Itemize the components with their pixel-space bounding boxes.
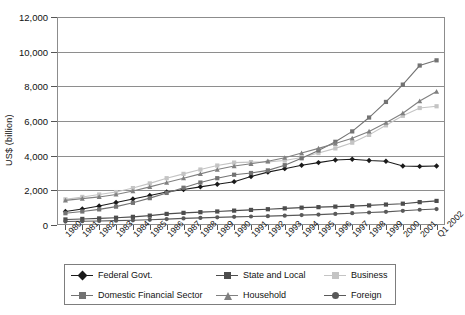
- data-point: [283, 206, 287, 210]
- data-point: [299, 163, 304, 168]
- data-point: [300, 156, 304, 160]
- data-point: [384, 202, 388, 206]
- data-point: [367, 129, 372, 134]
- chart-legend: Federal Govt.State and LocalBusinessDome…: [64, 264, 396, 305]
- data-point: [63, 211, 67, 215]
- data-point: [434, 89, 439, 94]
- data-point: [333, 157, 338, 162]
- data-point: [131, 201, 135, 205]
- legend-item-federal-govt[interactable]: Federal Govt.: [71, 270, 216, 280]
- data-point: [434, 163, 439, 168]
- legend-item-business[interactable]: Business: [324, 270, 403, 280]
- data-point: [215, 215, 219, 219]
- data-point: [249, 214, 253, 218]
- series-line: [65, 106, 436, 199]
- data-point: [418, 200, 422, 204]
- data-point: [232, 215, 236, 219]
- data-point: [350, 129, 354, 133]
- data-point: [367, 115, 371, 119]
- data-point: [165, 191, 169, 195]
- data-point: [249, 171, 253, 175]
- data-point: [181, 216, 185, 220]
- data-point: [181, 172, 185, 176]
- data-point: [266, 214, 270, 218]
- legend-marker-icon: [324, 270, 346, 280]
- data-point: [232, 209, 236, 213]
- data-point: [181, 211, 185, 215]
- legend-label: Household: [243, 290, 286, 300]
- data-point: [417, 164, 422, 169]
- data-point: [316, 205, 320, 209]
- data-point: [198, 167, 202, 171]
- data-point: [266, 168, 270, 172]
- data-point: [366, 158, 371, 163]
- data-point: [97, 207, 101, 211]
- data-point: [434, 104, 438, 108]
- data-point: [401, 209, 405, 213]
- y-axis-tick-labels: 02,0004,0006,0008,00010,00012,000: [0, 0, 57, 240]
- data-point: [215, 209, 219, 213]
- data-point: [384, 100, 388, 104]
- data-point: [418, 63, 422, 67]
- data-point: [114, 205, 118, 209]
- data-point: [165, 176, 169, 180]
- data-point: [165, 217, 169, 221]
- data-point: [198, 180, 202, 184]
- legend-marker-icon: [216, 270, 238, 280]
- legend-marker-icon: [71, 270, 93, 280]
- y-tick-label: 8,000: [24, 81, 48, 92]
- legend-item-state-and-local[interactable]: State and Local: [216, 270, 324, 280]
- data-point: [215, 176, 219, 180]
- data-point: [283, 163, 287, 167]
- data-point: [418, 208, 422, 212]
- legend-marker-icon: [324, 290, 346, 300]
- legend-label: Federal Govt.: [98, 270, 153, 280]
- data-point: [148, 196, 152, 200]
- legend-item-household[interactable]: Household: [216, 290, 324, 300]
- data-point: [383, 120, 388, 125]
- legend-label: Domestic Financial Sector: [98, 290, 203, 300]
- data-point: [198, 210, 202, 214]
- data-point: [434, 207, 438, 211]
- data-point: [350, 204, 354, 208]
- data-point: [249, 208, 253, 212]
- data-point: [165, 212, 169, 216]
- data-point: [232, 173, 236, 177]
- y-tick-label: 6,000: [24, 116, 48, 127]
- legend-item-domestic-financial-sector[interactable]: Domestic Financial Sector: [71, 290, 216, 300]
- series-line: [65, 60, 436, 213]
- data-point: [417, 98, 422, 103]
- data-point: [384, 210, 388, 214]
- data-point: [383, 159, 388, 164]
- data-point: [266, 207, 270, 211]
- y-tick-label: 4,000: [24, 150, 48, 161]
- data-point: [367, 203, 371, 207]
- data-point: [148, 214, 152, 218]
- data-point: [401, 83, 405, 87]
- data-point: [283, 214, 287, 218]
- data-point: [350, 211, 354, 215]
- legend-label: Business: [351, 270, 388, 280]
- data-point: [181, 186, 185, 190]
- series-household: [63, 89, 439, 203]
- data-point: [333, 146, 337, 150]
- y-tick-label: 2,000: [24, 185, 48, 196]
- y-tick-label: 10,000: [19, 46, 48, 57]
- data-point: [367, 210, 371, 214]
- series-line: [65, 159, 436, 211]
- data-point: [148, 218, 152, 222]
- series-line: [65, 92, 436, 201]
- data-point: [333, 212, 337, 216]
- legend-marker-icon: [216, 290, 238, 300]
- data-point: [418, 106, 422, 110]
- data-point: [316, 160, 321, 165]
- data-point: [400, 163, 405, 168]
- data-point: [350, 157, 355, 162]
- data-point: [316, 213, 320, 217]
- data-point: [63, 219, 67, 223]
- y-tick-label: 12,000: [19, 12, 48, 23]
- data-point: [401, 202, 405, 206]
- data-point: [350, 141, 354, 145]
- legend-item-foreign[interactable]: Foreign: [324, 290, 403, 300]
